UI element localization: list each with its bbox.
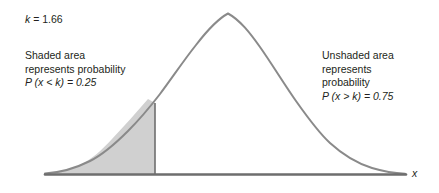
unshaded-note-line2: represents bbox=[322, 63, 372, 75]
x-axis-label: x bbox=[412, 167, 417, 179]
k-value-label: k = 1.66 bbox=[25, 13, 63, 27]
unshaded-area-annotation: Unshaded area represents probability P (… bbox=[322, 49, 394, 103]
shaded-note-line1: Shaded area bbox=[25, 49, 85, 61]
shaded-area-region bbox=[45, 99, 155, 174]
unshaded-note-line4: P (x > k) = 0.75 bbox=[322, 90, 393, 102]
unshaded-note-line3: probability bbox=[322, 76, 370, 88]
k-value-text: = 1.66 bbox=[30, 13, 62, 25]
unshaded-note-line1: Unshaded area bbox=[322, 49, 394, 61]
normal-distribution-figure: k = 1.66 Shaded area represents probabil… bbox=[0, 0, 439, 193]
shaded-note-line3: P (x < k) = 0.25 bbox=[25, 76, 96, 88]
shaded-note-line2: represents probability bbox=[25, 63, 125, 75]
shaded-area-annotation: Shaded area represents probability P (x … bbox=[25, 49, 125, 90]
